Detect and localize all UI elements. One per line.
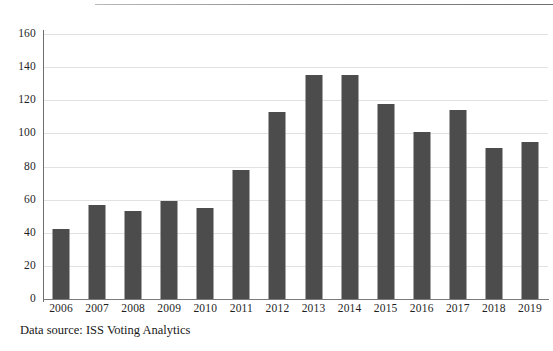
bar-slot (115, 34, 151, 299)
bar-slot (476, 34, 512, 299)
bar (485, 148, 502, 299)
x-tick-label: 2008 (115, 302, 151, 314)
bar-slot (223, 34, 259, 299)
x-axis-tick-labels: 2006200720082009201020112012201320142015… (43, 302, 548, 320)
bar-chart: 020406080100120140160 200620072008200920… (0, 0, 553, 351)
bar (125, 211, 142, 299)
bar-slot (187, 34, 223, 299)
bar-slot (404, 34, 440, 299)
y-tick-label: 160 (2, 27, 36, 39)
x-tick-label: 2010 (187, 302, 223, 314)
bar (269, 112, 286, 299)
bar (341, 75, 358, 299)
x-tick-label: 2019 (512, 302, 548, 314)
y-tick-label: 0 (2, 292, 36, 304)
bar (233, 170, 250, 299)
y-tick-label: 100 (2, 126, 36, 138)
data-source-note: Data source: ISS Voting Analytics (20, 323, 190, 338)
x-tick-label: 2017 (440, 302, 476, 314)
bar (197, 208, 214, 299)
y-tick-label: 120 (2, 93, 36, 105)
bar-slot (332, 34, 368, 299)
x-axis-line (43, 299, 549, 300)
bar (53, 229, 70, 299)
y-tick-label: 80 (2, 160, 36, 172)
bar (449, 110, 466, 299)
x-tick-label: 2011 (223, 302, 259, 314)
y-tick-label: 40 (2, 226, 36, 238)
bar (413, 132, 430, 299)
y-tick-label: 60 (2, 193, 36, 205)
bar (377, 104, 394, 299)
bar-slot (368, 34, 404, 299)
bar (521, 142, 538, 299)
bar (161, 201, 178, 299)
bar-slot (512, 34, 548, 299)
bar-slot (259, 34, 295, 299)
bar (89, 205, 106, 299)
x-tick-label: 2007 (79, 302, 115, 314)
x-tick-label: 2016 (404, 302, 440, 314)
y-tick-label: 20 (2, 259, 36, 271)
bar-slot (43, 34, 79, 299)
x-tick-label: 2018 (476, 302, 512, 314)
x-tick-label: 2012 (259, 302, 295, 314)
bar-slot (296, 34, 332, 299)
x-tick-label: 2014 (332, 302, 368, 314)
x-tick-label: 2006 (43, 302, 79, 314)
bar-slot (440, 34, 476, 299)
bar-slot (151, 34, 187, 299)
bars-group (43, 34, 548, 299)
bar (305, 75, 322, 299)
x-tick-label: 2015 (368, 302, 404, 314)
x-tick-label: 2013 (296, 302, 332, 314)
bar-slot (79, 34, 115, 299)
y-tick-label: 140 (2, 60, 36, 72)
x-tick-label: 2009 (151, 302, 187, 314)
